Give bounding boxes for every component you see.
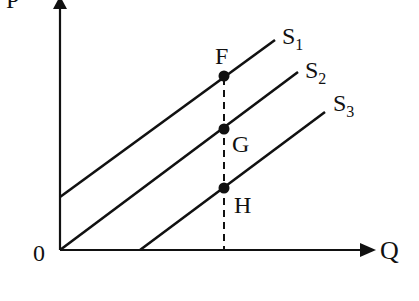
x-axis-label: Q [380,236,399,265]
s1-label: S1 [282,23,303,53]
supply-curve-s2 [60,72,298,250]
y-axis: P [6,0,67,250]
point-h-label: H [234,192,251,218]
y-axis-label: P [6,0,19,13]
y-axis-arrow-icon [53,0,67,9]
point-f [219,71,230,82]
x-axis-arrow-icon [360,243,376,257]
supply-diagram: P Q 0 S1 S2 S3 F G H [0,0,419,301]
origin-label: 0 [33,240,45,266]
point-f-label: F [215,43,228,69]
s2-label: S2 [305,57,326,87]
point-g-label: G [232,131,249,157]
point-g [219,124,230,135]
point-h [219,183,230,194]
x-axis: Q [60,236,399,265]
s3-label: S3 [333,90,354,120]
